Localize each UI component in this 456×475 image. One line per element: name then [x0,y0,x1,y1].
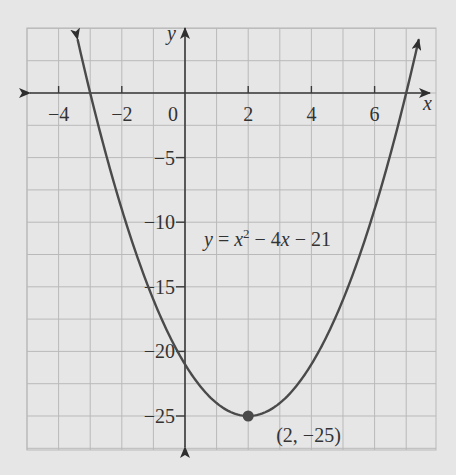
y-tick-label: −20 [144,340,175,362]
x-tick-label: −2 [111,103,132,125]
x-axis-label: x [422,92,432,114]
parabola-chart: −4−20246−5−10−15−20−25 (2, −25) y = x2 −… [0,0,456,475]
x-tick-label: 4 [306,103,316,125]
tick-labels: −4−20246−5−10−15−20−25 [48,103,380,427]
vertex-point [243,411,254,422]
x-tick-label: 2 [243,103,253,125]
y-axis-label: y [165,22,176,45]
x-tick-label: 6 [370,103,380,125]
equation-label: y = x2 − 4x − 21 [202,226,331,251]
y-tick-label: −10 [144,211,175,233]
x-tick-label: −4 [48,103,69,125]
y-tick-label: −25 [144,405,175,427]
y-tick-label: −5 [154,147,175,169]
vertex-label: (2, −25) [276,424,341,447]
x-tick-label: 0 [168,103,178,125]
